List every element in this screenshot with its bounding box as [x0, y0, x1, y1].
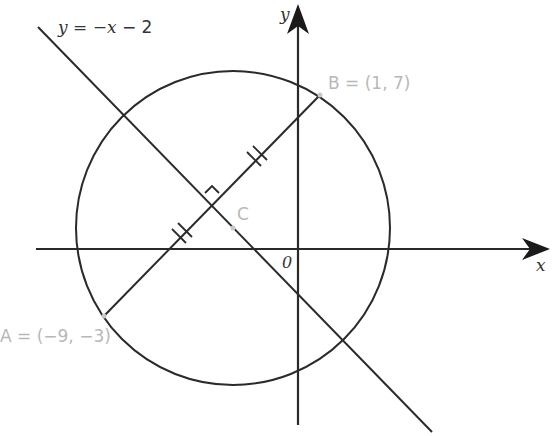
tick-marks-lower — [172, 223, 192, 243]
equation-label: y = −x − 2 — [57, 17, 152, 37]
point-b-label: B = (1, 7) — [328, 73, 410, 93]
point-c — [231, 226, 236, 231]
point-c-label: C — [237, 204, 249, 224]
origin-label: 0 — [282, 253, 292, 272]
y-axis-label: y — [279, 4, 290, 24]
x-axis-label: x — [536, 255, 546, 275]
point-a-label: A = (−9, −3) — [0, 326, 111, 346]
tick-marks-upper — [247, 146, 267, 166]
geometry-diagram: y = −x − 2 y x 0 B = (1, 7) A = (−9, −3)… — [0, 0, 552, 436]
point-a — [102, 314, 107, 319]
point-b — [318, 93, 323, 98]
right-angle-marker — [205, 186, 219, 193]
